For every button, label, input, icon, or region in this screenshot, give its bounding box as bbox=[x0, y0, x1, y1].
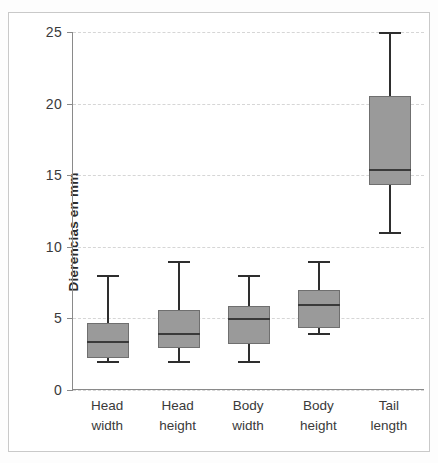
y-tick-0 bbox=[67, 390, 73, 391]
x-axis-label-head-width: Headwidth bbox=[72, 396, 142, 454]
x-axis-label-line2: height bbox=[142, 416, 212, 436]
y-tick-20 bbox=[67, 104, 73, 105]
upper-whisker bbox=[318, 261, 320, 290]
upper-whisker-cap bbox=[308, 261, 330, 263]
lower-whisker bbox=[178, 348, 180, 361]
lower-whisker-cap bbox=[97, 361, 119, 363]
y-tick-label-20: 20 bbox=[34, 97, 62, 111]
median-line bbox=[228, 318, 270, 320]
x-axis-label-line2: length bbox=[354, 416, 424, 436]
upper-whisker-cap bbox=[97, 275, 119, 277]
x-axis-label-line1: Head bbox=[91, 398, 123, 413]
y-tick-5 bbox=[67, 318, 73, 319]
x-axis-label-line2: width bbox=[213, 416, 283, 436]
box-plot-series bbox=[87, 32, 129, 389]
lower-whisker-cap bbox=[308, 333, 330, 335]
median-line bbox=[87, 341, 129, 343]
lower-whisker-cap bbox=[379, 232, 401, 234]
box-plot-series bbox=[369, 32, 411, 389]
upper-whisker bbox=[107, 275, 109, 322]
x-axis-label-line1: Tail bbox=[379, 398, 399, 413]
upper-whisker-cap bbox=[168, 261, 190, 263]
y-tick-25 bbox=[67, 32, 73, 33]
gridline-y-0 bbox=[73, 390, 424, 391]
lower-whisker-cap bbox=[238, 361, 260, 363]
y-tick-label-10: 10 bbox=[34, 240, 62, 254]
x-axis-label-line2: height bbox=[283, 416, 353, 436]
box-plot-chart: Dierencias en mm 0510152025 HeadwidthHea… bbox=[0, 0, 438, 463]
box-iqr bbox=[298, 290, 340, 329]
x-axis-label-line2: width bbox=[72, 416, 142, 436]
box-iqr bbox=[228, 306, 270, 345]
x-axis-tick-labels: HeadwidthHeadheightBodywidthBodyheightTa… bbox=[72, 396, 424, 454]
upper-whisker bbox=[248, 275, 250, 305]
box-plot-series bbox=[298, 32, 340, 389]
x-axis-label-line1: Head bbox=[161, 398, 193, 413]
y-tick-15 bbox=[67, 175, 73, 176]
median-line bbox=[298, 304, 340, 306]
lower-whisker-cap bbox=[168, 361, 190, 363]
upper-whisker-cap bbox=[238, 275, 260, 277]
x-axis-label-head-height: Headheight bbox=[142, 396, 212, 454]
median-line bbox=[158, 333, 200, 335]
x-axis-label-tail-length: Taillength bbox=[354, 396, 424, 454]
lower-whisker bbox=[389, 185, 391, 232]
lower-whisker bbox=[248, 344, 250, 361]
box-plot-series bbox=[158, 32, 200, 389]
y-tick-10 bbox=[67, 247, 73, 248]
plot-area bbox=[72, 32, 424, 390]
box-plot-series bbox=[228, 32, 270, 389]
x-axis-label-body-width: Bodywidth bbox=[213, 396, 283, 454]
x-axis-label-line1: Body bbox=[233, 398, 264, 413]
y-tick-label-5: 5 bbox=[34, 311, 62, 325]
upper-whisker bbox=[389, 32, 391, 96]
y-tick-label-25: 25 bbox=[34, 25, 62, 39]
y-tick-label-15: 15 bbox=[34, 168, 62, 182]
y-tick-label-0: 0 bbox=[34, 383, 62, 397]
x-axis-label-line1: Body bbox=[303, 398, 334, 413]
median-line bbox=[369, 169, 411, 171]
upper-whisker bbox=[178, 261, 180, 310]
box-iqr bbox=[158, 310, 200, 349]
x-axis-label-body-height: Bodyheight bbox=[283, 396, 353, 454]
box-iqr bbox=[369, 96, 411, 185]
upper-whisker-cap bbox=[379, 32, 401, 34]
